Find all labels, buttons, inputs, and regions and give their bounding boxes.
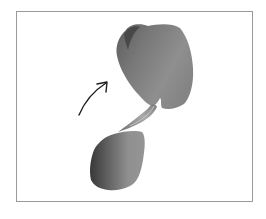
curved-arrow-up-right-icon [79, 82, 107, 115]
illustration-canvas [0, 0, 266, 219]
upper-blob [116, 24, 193, 109]
lower-blob [90, 131, 145, 190]
brush-illustration [0, 0, 266, 219]
connecting-stroke [118, 105, 157, 132]
